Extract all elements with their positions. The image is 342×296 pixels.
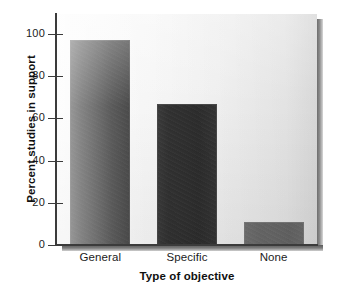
x-tick-label-specific: Specific [137, 252, 237, 264]
y-tick-mark-0 [48, 245, 56, 246]
bar-specific[interactable] [157, 104, 217, 245]
y-tick-mark-20 [48, 203, 56, 204]
y-tick-mark-80 [48, 76, 56, 77]
y-tick-mark-inner-20 [57, 203, 63, 204]
plot-area [57, 14, 317, 245]
panel-drop-shadow-right [317, 19, 323, 250]
y-axis-title: Percent studies in support [25, 14, 37, 244]
x-tick-label-none: None [224, 252, 324, 264]
bar-chart-figure: 100806040200 GeneralSpecificNone Percent… [0, 0, 342, 296]
y-tick-mark-100 [48, 34, 56, 35]
x-tick-label-general: General [50, 252, 150, 264]
y-tick-mark-40 [48, 161, 56, 162]
x-axis-line [55, 244, 318, 246]
y-tick-mark-60 [48, 118, 56, 119]
y-tick-mark-inner-100 [57, 34, 63, 35]
bar-general[interactable] [70, 40, 130, 245]
y-tick-mark-inner-0 [57, 245, 63, 246]
bar-none[interactable] [244, 222, 304, 245]
x-axis-title: Type of objective [57, 270, 317, 282]
y-tick-mark-inner-40 [57, 161, 63, 162]
y-tick-mark-inner-60 [57, 118, 63, 119]
y-tick-mark-inner-80 [57, 76, 63, 77]
y-axis-line [55, 13, 57, 246]
